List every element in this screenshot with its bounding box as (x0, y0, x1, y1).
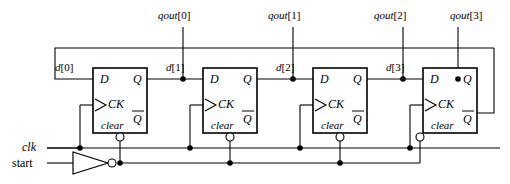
ff2-d-label: D (320, 73, 329, 85)
junction-clk1 (187, 145, 193, 151)
ff1-clear-label: clear (211, 120, 234, 131)
ff1-d-label: D (210, 73, 219, 85)
ff1-qbar-label: Q (243, 113, 252, 125)
clear-bus (47, 141, 420, 163)
ff0-q-label: Q (133, 73, 142, 85)
qout1-label: qout[1] (268, 10, 300, 21)
ff2-ck-label: CK (328, 98, 344, 110)
ff1-q-label: Q (243, 73, 252, 85)
ff0-clear-label: clear (101, 120, 124, 131)
ff0-d-label: D (100, 73, 109, 85)
junction-clear1 (227, 160, 233, 166)
circuit-schematic-svg (0, 0, 510, 184)
junction-qout3 (455, 76, 461, 82)
qout0-label: qout[0] (158, 10, 190, 21)
flipflop-boxes (93, 68, 477, 133)
d3-label: d[3] (386, 62, 404, 73)
ff2-qbar-label: Q (353, 113, 362, 125)
junction-clk3 (407, 145, 413, 151)
ff2-clear-bubble-icon (336, 133, 344, 141)
inverter-bubble-icon (108, 159, 116, 167)
ff1-ck-label: CK (218, 98, 234, 110)
qout2-label: qout[2] (374, 10, 406, 21)
junction-clear0 (117, 160, 123, 166)
d0-label: d[0] (55, 62, 73, 73)
qout3-label: qout[3] (450, 10, 482, 21)
clear-bubbles (116, 133, 424, 141)
junction-qout0 (180, 76, 186, 82)
ff0-qbar-label: Q (133, 113, 142, 125)
d2-label: d[2] (276, 62, 294, 73)
d1-label: d[1] (166, 62, 184, 73)
junction-qout2 (400, 76, 406, 82)
junction-clear2 (337, 160, 343, 166)
ff0-clear-bubble-icon (116, 133, 124, 141)
junction-clk2 (297, 145, 303, 151)
ff2-clear-label: clear (321, 120, 344, 131)
inverter-not-gate (73, 152, 108, 174)
junction-qout1 (290, 76, 296, 82)
ff3-ck-label: CK (438, 98, 454, 110)
ff3-clear-bubble-icon (416, 133, 424, 141)
ff3-q-label: Q (463, 73, 472, 85)
ff3-clear-label: clear (431, 120, 454, 131)
circuit-diagram: qout[0] qout[1] qout[2] qout[3] d[0] d[1… (0, 0, 510, 184)
ff3-d-label: D (430, 73, 439, 85)
ff2-q-label: Q (353, 73, 362, 85)
ff1-clear-bubble-icon (226, 133, 234, 141)
ff0-ck-label: CK (108, 98, 124, 110)
start-label: start (12, 157, 33, 169)
clk-label: clk (22, 141, 36, 153)
ff3-qbar-label: Q (463, 113, 472, 125)
